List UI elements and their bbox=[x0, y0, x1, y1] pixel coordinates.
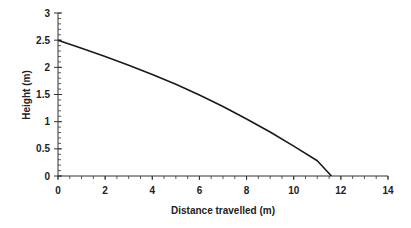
x-tick-label: 12 bbox=[335, 185, 347, 196]
chart: 00.511.522.53 02468101214 Height (m) Dis… bbox=[0, 0, 411, 228]
y-tick-label: 2 bbox=[44, 62, 50, 73]
x-axis: 02468101214 bbox=[55, 176, 394, 196]
x-tick-label: 4 bbox=[150, 185, 156, 196]
y-tick-label: 1.5 bbox=[36, 89, 50, 100]
y-axis: 00.511.522.53 bbox=[36, 8, 62, 182]
x-tick-label: 2 bbox=[102, 185, 108, 196]
y-tick-label: 2.5 bbox=[36, 35, 50, 46]
y-axis-title: Height (m) bbox=[21, 70, 32, 119]
x-tick-label: 14 bbox=[382, 185, 394, 196]
y-tick-label: 0 bbox=[44, 171, 50, 182]
y-tick-label: 3 bbox=[44, 8, 50, 19]
x-tick-label: 8 bbox=[244, 185, 250, 196]
x-tick-label: 10 bbox=[288, 185, 300, 196]
trajectory-line bbox=[58, 40, 331, 176]
x-axis-title: Distance travelled (m) bbox=[171, 205, 275, 216]
y-tick-label: 0.5 bbox=[36, 143, 50, 154]
x-tick-label: 6 bbox=[197, 185, 203, 196]
y-tick-label: 1 bbox=[44, 116, 50, 127]
x-tick-label: 0 bbox=[55, 185, 61, 196]
